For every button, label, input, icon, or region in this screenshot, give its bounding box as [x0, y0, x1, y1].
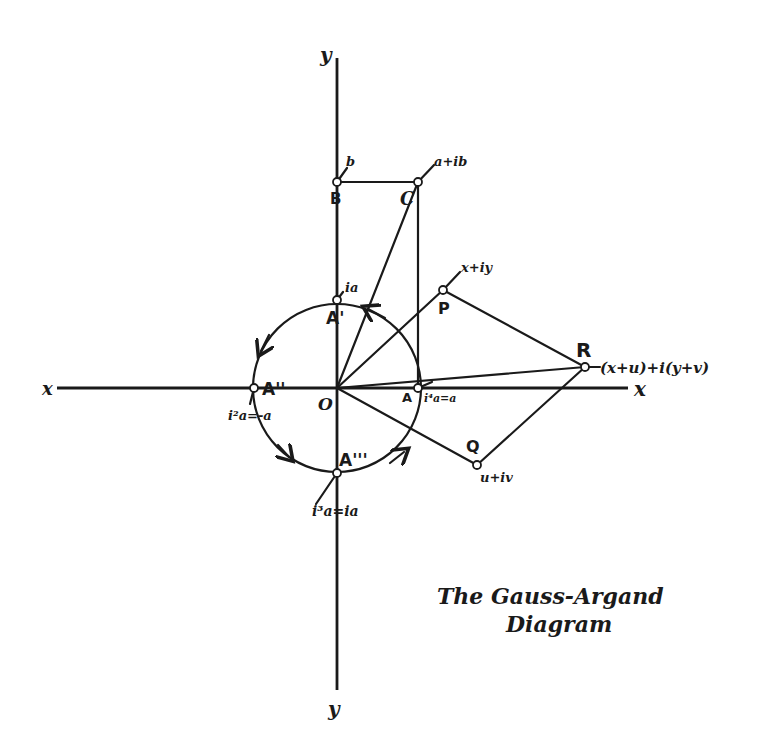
value-a-triple-prime: i³a=ia — [312, 503, 359, 519]
point-p — [439, 286, 447, 294]
value-b: b — [346, 154, 355, 169]
point-c — [414, 178, 422, 186]
label-r: R — [576, 338, 591, 362]
label-a-prime: A' — [326, 308, 344, 328]
point-a-double-prime — [250, 384, 258, 392]
point-b — [333, 178, 341, 186]
point-r — [581, 363, 589, 371]
rotation-arrow-left — [261, 335, 269, 351]
point-a-prime — [333, 296, 341, 304]
diagram-title-line2: Diagram — [505, 611, 612, 637]
gauss-argand-diagram: x x y y O B C A' A'' A''' A P Q R b a+ib… — [0, 0, 770, 756]
segment-qr — [477, 367, 585, 465]
label-a: A — [402, 390, 412, 405]
x-axis-right-label: x — [633, 377, 647, 401]
value-q: u+iv — [480, 470, 513, 485]
vector-or — [337, 367, 585, 388]
value-a-double-prime: i²a=-a — [228, 408, 272, 423]
leader-a3 — [316, 473, 337, 504]
rotation-arrow-top — [368, 309, 385, 318]
x-axis-left-label: x — [41, 378, 53, 399]
y-axis-bottom-label: y — [327, 697, 341, 721]
value-a: i⁴a=a — [424, 392, 456, 405]
diagram-title-line1: The Gauss-Argand — [437, 583, 664, 609]
point-a — [414, 384, 422, 392]
segment-pr — [443, 290, 585, 367]
point-a-triple-prime — [333, 469, 341, 477]
label-q: Q — [466, 437, 480, 456]
label-c: C — [400, 188, 415, 209]
label-a-triple-prime: A''' — [339, 450, 368, 470]
label-b: B — [330, 190, 341, 208]
y-axis-top-label: y — [319, 43, 333, 67]
label-p: P — [438, 299, 450, 318]
origin-label: O — [318, 394, 333, 414]
value-c: a+ib — [434, 154, 467, 169]
rotation-arrow-right — [390, 452, 404, 463]
label-a-double-prime: A'' — [262, 379, 286, 399]
point-q — [473, 461, 481, 469]
rotation-arrow-bottom — [278, 445, 289, 457]
value-r: (x+u)+i(y+v) — [600, 359, 709, 377]
value-p: x+iy — [460, 260, 494, 275]
value-a-prime: ia — [345, 280, 358, 295]
